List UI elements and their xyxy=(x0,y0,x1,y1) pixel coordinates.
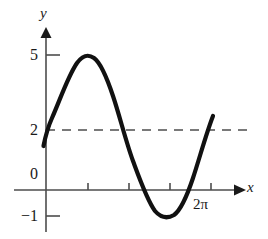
y-tick-label-0: 0 xyxy=(16,166,38,182)
x-tick-label-two-pi: 2π xyxy=(193,197,208,212)
sine-wave-figure: y x 5 2 0 −1 2π xyxy=(0,0,268,239)
y-tick-label-minus-1: −1 xyxy=(10,208,38,224)
y-tick-label-5: 5 xyxy=(16,47,38,63)
x-axis-label: x xyxy=(247,180,254,195)
plot-canvas xyxy=(0,0,268,239)
sine-curve xyxy=(44,56,214,218)
y-axis-label: y xyxy=(40,6,47,21)
y-tick-label-2: 2 xyxy=(16,122,38,138)
